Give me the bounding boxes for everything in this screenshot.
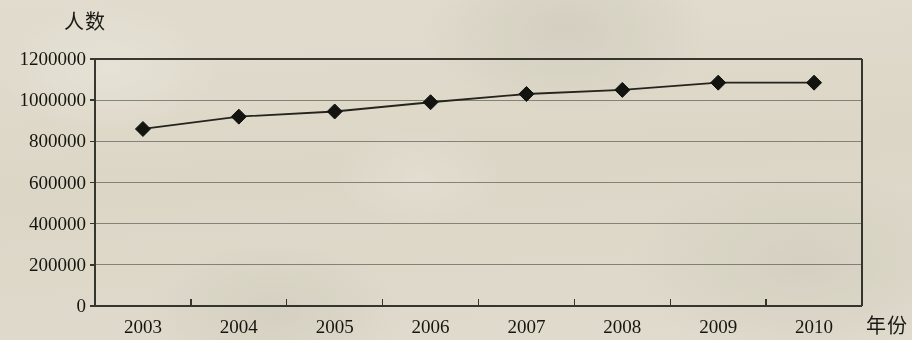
y-axis-label-800000: 800000 xyxy=(29,130,86,152)
gridlines-group xyxy=(95,59,862,265)
y-axis-label-400000: 400000 xyxy=(29,213,86,235)
data-point-marker-2006 xyxy=(423,95,438,110)
x-axis-label-2010: 2010 xyxy=(795,316,833,338)
line-chart-figure: 人数 年份 1200000100000080000060000040000020… xyxy=(0,0,912,340)
data-point-marker-2008 xyxy=(615,82,630,97)
y-axis-label-1200000: 1200000 xyxy=(20,48,87,70)
data-point-marker-2010 xyxy=(807,75,822,90)
x-axis-label-2009: 2009 xyxy=(699,316,737,338)
x-axis-ticks xyxy=(191,299,766,306)
x-axis-label-2008: 2008 xyxy=(603,316,641,338)
y-axis-label-600000: 600000 xyxy=(29,172,86,194)
x-axis-label-2007: 2007 xyxy=(507,316,545,338)
y-axis-title: 人数 xyxy=(64,6,106,35)
data-line-group xyxy=(143,83,814,129)
y-axis-label-0: 0 xyxy=(77,295,87,317)
chart-canvas xyxy=(0,0,912,340)
data-point-marker-2009 xyxy=(711,75,726,90)
data-point-marker-2003 xyxy=(135,121,150,136)
data-point-marker-2005 xyxy=(327,104,342,119)
data-series-line xyxy=(143,83,814,129)
data-point-marker-2004 xyxy=(231,109,246,124)
x-axis-label-2003: 2003 xyxy=(124,316,162,338)
y-axis-label-200000: 200000 xyxy=(29,254,86,276)
x-axis-label-2004: 2004 xyxy=(220,316,258,338)
x-axis-title: 年份 xyxy=(866,310,908,339)
x-axis-label-2006: 2006 xyxy=(412,316,450,338)
data-point-marker-2007 xyxy=(519,86,534,101)
y-axis-label-1000000: 1000000 xyxy=(20,89,87,111)
data-markers-group xyxy=(135,75,821,136)
x-axis-label-2005: 2005 xyxy=(316,316,354,338)
